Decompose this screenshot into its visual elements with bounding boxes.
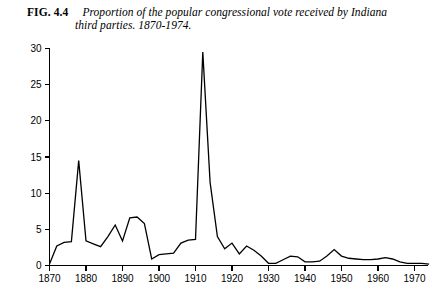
data-series-line: [50, 52, 430, 264]
x-axis-tick-label: 1910: [184, 273, 207, 284]
y-axis-tick-label: 15: [30, 152, 42, 163]
y-axis-tick-label: 25: [30, 79, 42, 90]
x-axis-tick-label: 1900: [148, 273, 171, 284]
x-axis-tick-label: 1870: [38, 273, 61, 284]
y-axis-tick-label: 30: [30, 43, 42, 54]
x-axis-tick-label: 1960: [367, 273, 390, 284]
y-axis-tick-label: 0: [36, 260, 42, 271]
x-axis-tick-label: 1890: [111, 273, 134, 284]
x-axis-tick-marks: [50, 266, 415, 271]
y-axis-tick-label: 10: [30, 188, 42, 199]
y-axis-tick-label: 20: [30, 115, 42, 126]
figure-page: FIG. 4.4Proportion of the popular congre…: [0, 0, 434, 295]
x-axis-tick-label: 1930: [257, 273, 280, 284]
x-axis-tick-label: 1940: [294, 273, 317, 284]
x-axis-tick-label: 1920: [221, 273, 244, 284]
y-axis-tick-labels: 051015202530: [30, 43, 42, 271]
x-axis-tick-label: 1880: [75, 273, 98, 284]
y-axis-tick-label: 5: [36, 224, 42, 235]
x-axis-tick-labels: 1870188018901900191019201930194019501960…: [38, 273, 426, 284]
line-chart: 051015202530 187018801890190019101920193…: [0, 0, 434, 295]
x-axis-tick-label: 1950: [330, 273, 353, 284]
x-axis-tick-label: 1970: [403, 273, 426, 284]
